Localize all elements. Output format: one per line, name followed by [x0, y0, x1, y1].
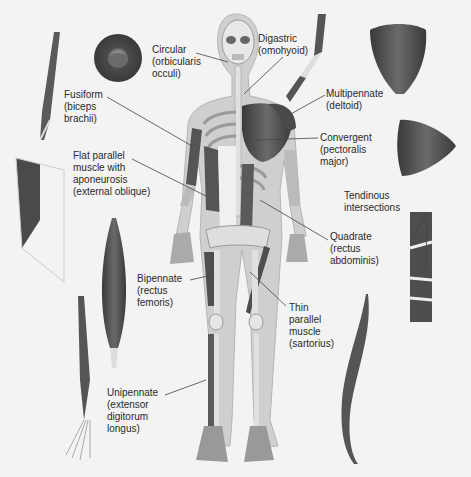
- label-flat-parallel: Flat parallel muscle with aponeurosis (e…: [73, 150, 150, 198]
- diagram-artwork: [0, 0, 471, 477]
- label-circular: Circular (orbicularis occuli): [152, 44, 201, 80]
- label-quadrate: Quadrate (rectus abdominis): [330, 231, 379, 267]
- label-convergent: Convergent (pectoralis major): [320, 132, 372, 168]
- label-thin-parallel: Thin parallel muscle (sartorius): [289, 302, 334, 350]
- label-fusiform: Fusiform (biceps brachii): [64, 89, 103, 125]
- label-digastric: Digastric (omohyoid): [258, 33, 308, 57]
- label-unipennate: Unipennate (extensor digitorum longus): [107, 387, 158, 435]
- label-multipennate: Multipennate (deltoid): [326, 88, 383, 112]
- label-tendinous-intersections: Tendinous intersections: [344, 190, 400, 214]
- muscle-shapes-diagram: Circular (orbicularis occuli) Digastric …: [0, 0, 471, 477]
- label-bipennate: Bipennate (rectus femoris): [137, 273, 182, 309]
- human-figure: [170, 14, 308, 462]
